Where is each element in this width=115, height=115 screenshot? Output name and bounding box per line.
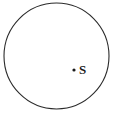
point-s-label: S [79,63,86,76]
circle-outline [4,3,109,109]
point-s-dot [72,68,75,71]
geometry-figure: S [0,0,115,115]
diagram-canvas [0,0,115,115]
